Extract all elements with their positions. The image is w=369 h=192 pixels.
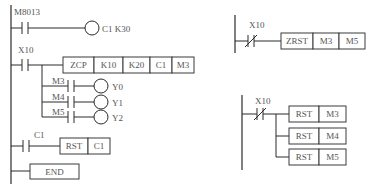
rung-x10-zrst: X10 ZRST M3 M5 [235,15,365,53]
operand-c1: C1 [156,60,167,70]
rst-m5-instruction-box: RST M5 [289,149,346,165]
branch-m3-y0: M3 Y0 [42,76,123,93]
operand-k10: K10 [101,60,117,70]
operand-m4: M4 [326,131,339,141]
op-rst: RST [296,109,313,119]
rst-m4-instruction-box: RST M4 [289,128,346,144]
coil-label-c1-k30: C1 K30 [102,24,131,34]
rung-c1-rst: C1 RST C1 [11,130,110,154]
operand-m3: M3 [177,60,190,70]
contact-label-c1: C1 [34,130,45,140]
coil-icon [94,110,108,124]
operand-c1: C1 [94,141,105,151]
rung-end: END [11,164,79,179]
op-rst: RST [296,152,313,162]
op-end: END [45,167,64,177]
rung-m8013: M8013 C1 K30 [11,7,131,35]
zcp-instruction-box: ZCP K10 K20 C1 M3 [63,57,194,73]
coil-label-y1: Y1 [112,98,123,108]
zrst-instruction-box: ZRST M3 M5 [281,33,365,49]
contact-label-m3: M3 [52,76,65,86]
coil-icon [85,21,99,35]
contact-label-x10: X10 [18,45,34,55]
op-zrst: ZRST [286,36,309,46]
operand-m3: M3 [320,36,333,46]
contact-label-m5: M5 [52,107,65,117]
operand-m5: M5 [326,152,339,162]
coil-icon [94,79,108,93]
rst-c1-instruction-box: RST C1 [60,138,110,154]
op-zcp: ZCP [70,60,87,70]
operand-m3: M3 [326,109,339,119]
rung-x10-zcp: X10 ZCP K10 K20 C1 M3 M3 Y0 [11,45,194,124]
op-rst: RST [296,131,313,141]
operand-m5: M5 [346,36,359,46]
contact-label-x10: X10 [249,20,265,30]
contact-label-m8013: M8013 [14,7,41,17]
coil-icon [94,95,108,109]
branch-m5-y2: M5 Y2 [42,107,123,124]
op-rst: RST [66,141,83,151]
rung-x10-rst-multi: X10 RST M3 RST M4 RST M5 [242,95,346,170]
contact-label-m4: M4 [52,92,65,102]
coil-label-y2: Y2 [112,113,123,123]
contact-label-x10: X10 [255,96,271,106]
coil-label-y0: Y0 [112,82,123,92]
ladder-diagram: M8013 C1 K30 X10 ZCP K10 K20 C1 M3 [0,0,369,192]
rst-m3-instruction-box: RST M3 [289,106,346,122]
operand-k20: K20 [129,60,145,70]
